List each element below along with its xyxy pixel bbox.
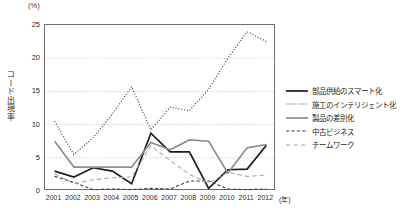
- legend-label-3: 中古ビジネス: [312, 126, 354, 137]
- legend-label-2: 製品の差別化: [312, 112, 354, 123]
- y-axis-tick-15: 15: [32, 86, 40, 95]
- legend-item-0[interactable]: 部品供給のスマート化: [286, 84, 410, 98]
- legend-label-1: 施工のインテリジェント化: [312, 99, 396, 110]
- y-axis-tick-0: 0: [36, 186, 40, 195]
- legend-swatch-icon-0: [286, 86, 308, 96]
- legend-swatch-icon-3: [286, 126, 308, 136]
- legend-swatch-icon-1: [286, 99, 308, 109]
- chart-legend: 部品供給のスマート化施工のインテリジェント化製品の差別化中古ビジネスチームワーク: [286, 84, 410, 152]
- legend-swatch-icon-2: [286, 113, 308, 123]
- legend-item-1[interactable]: 施工のインテリジェント化: [286, 98, 410, 112]
- x-axis-tick-2008: 2008: [181, 194, 197, 201]
- x-axis-tick-2005: 2005: [123, 194, 139, 201]
- x-axis-tick-2007: 2007: [161, 194, 177, 201]
- y-axis-tick-5: 5: [36, 152, 40, 161]
- series-line-3: [55, 176, 267, 189]
- x-axis-unit-label: (年): [279, 194, 291, 204]
- x-axis-tick-2001: 2001: [46, 194, 62, 201]
- y-axis-tick-10: 10: [32, 119, 40, 128]
- y-axis-tick-labels: 0510152025: [14, 0, 40, 224]
- x-axis-tick-2003: 2003: [84, 194, 100, 201]
- legend-label-4: チームワーク: [312, 139, 354, 150]
- legend-item-2[interactable]: 製品の差別化: [286, 111, 410, 125]
- legend-item-3[interactable]: 中古ビジネス: [286, 125, 410, 139]
- x-axis-tick-2004: 2004: [104, 194, 120, 201]
- x-axis-tick-2010: 2010: [219, 194, 235, 201]
- x-axis-tick-labels: 2001200220032004200520062007200820092010…: [44, 192, 275, 208]
- series-line-2: [55, 140, 267, 173]
- x-axis-tick-2011: 2011: [239, 194, 254, 201]
- x-axis-tick-2006: 2006: [142, 194, 158, 201]
- y-axis-tick-20: 20: [32, 53, 40, 62]
- plot-area: [44, 24, 275, 190]
- line-chart: (%) コード出現率 0510152025 200120022003200420…: [0, 0, 412, 224]
- x-axis-tick-2012: 2012: [258, 194, 274, 201]
- legend-item-4[interactable]: チームワーク: [286, 138, 410, 152]
- x-axis-tick-2002: 2002: [65, 194, 81, 201]
- x-axis-tick-2009: 2009: [200, 194, 216, 201]
- plot-svg: [45, 25, 276, 191]
- series-line-1: [55, 32, 267, 155]
- series-line-0: [55, 133, 267, 188]
- y-axis-tick-25: 25: [32, 20, 40, 29]
- legend-swatch-icon-4: [286, 140, 308, 150]
- legend-label-0: 部品供給のスマート化: [312, 85, 382, 96]
